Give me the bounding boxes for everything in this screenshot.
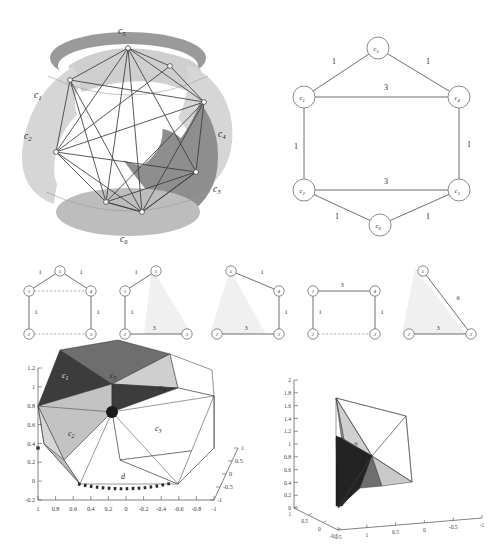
plot-right-x-tick — [309, 513, 312, 515]
plot-right-x-ticks: 10.50-0.5 — [289, 506, 341, 539]
subgraph-edge-1-5 — [129, 274, 151, 288]
subgraph-edge-weight-4-3: 1 — [380, 308, 383, 315]
plot-right-y-tick-label: 0.4 — [284, 480, 291, 486]
plot-right-y-tick-label: 1.6 — [284, 403, 291, 409]
subgraph-edge-1-5 — [33, 274, 55, 288]
subgraph-edge-weight-4-3: 1 — [96, 308, 99, 315]
plot-left-y-tick-label: 0.8 — [27, 402, 35, 409]
subgraph-edge-weight-5-4: 1 — [260, 268, 263, 275]
plot-right-z-tick-label: 0 — [423, 527, 426, 533]
subgraph-edge-5-4 — [236, 273, 274, 289]
plot-left-z-tick-label: 0.5 — [235, 457, 243, 464]
plot-left-y-tick-label: 0 — [32, 477, 35, 484]
plot-left-x-tick-label: 0 — [124, 505, 127, 512]
graph-edge-c5-c4 — [387, 54, 449, 92]
plot-left-y-tick-label: 1.2 — [27, 364, 35, 371]
plot-left-z-tick-label: -1 — [217, 496, 222, 503]
plot-left-y-tick-label: 1 — [32, 383, 35, 390]
plot-right-y-tick-label: 2 — [288, 377, 291, 383]
subgraph-node-label-1: 1 — [312, 289, 314, 294]
subgraph-edge-weight-1-2: 1 — [130, 308, 133, 315]
graph-edge-weight-c6-c3: 1 — [426, 212, 430, 221]
graph-edge-c6-c3 — [390, 194, 449, 220]
graph-edges — [304, 54, 459, 221]
graph-panel: 11311311 c5c1c4c2c3c6 — [252, 6, 494, 254]
plot-left-y-tick-label: -0.2 — [25, 496, 35, 503]
subgraph-4: 3111423 — [308, 281, 384, 339]
subgraph-edge-weight-2-3: 3 — [244, 324, 247, 331]
plot-left-x-tick-label: -0.8 — [192, 505, 202, 512]
plot-right-y-tick-label: 1.4 — [284, 416, 291, 422]
plot-left-x-tick-label: 1 — [36, 505, 39, 512]
subgraph-edge-weight-5-3: 6 — [456, 294, 460, 301]
plot-left-z-tick-label: 1 — [241, 444, 244, 451]
plot-right-z-ticks: 1.510.50-0.5-1 — [335, 515, 485, 540]
plot-right-x-tick — [323, 521, 326, 523]
sphere-panel: c5c1c2c4c3c6 — [10, 6, 248, 254]
sphere-region-label-c1: c1 — [34, 90, 42, 101]
plot-left-y-ticks: 1.210.80.60.40.20-0.2 — [25, 364, 42, 503]
subgraph-edge-weight-2-3: 3 — [436, 324, 439, 331]
sphere-region-label-c5: c5 — [118, 26, 126, 37]
plot-right-x-tick-label: 1 — [289, 511, 292, 517]
plot-left-y-tick-label: 0.2 — [27, 458, 35, 465]
plot-right-y-tick-label: 1 — [288, 441, 291, 447]
polyhedron-faces-right — [336, 398, 412, 508]
figure-root: c5c1c2c4c3c6 11311311 c5c1c4c2c3c6 11115… — [0, 0, 498, 556]
plot-right-y-tick-label: 1.8 — [284, 390, 291, 396]
graph-edge-weight-c1-c4: 3 — [384, 83, 388, 92]
graph-edge-weight-c2-c6: 1 — [335, 212, 339, 221]
subgraph-edge-weight-1-5: 1 — [38, 268, 41, 275]
subgraph-edge-weight-1-5: 1 — [134, 268, 137, 275]
plot-left-x-tick-label: 0.4 — [87, 505, 95, 512]
plot-left-z-ticks: 10.50-0.5-1 — [210, 444, 244, 503]
plot-left-y-tick-label: 0.6 — [27, 421, 35, 428]
plot-right-z-tick-label: 1 — [365, 532, 368, 538]
plot-left-x-tick-label: 0.8 — [52, 505, 60, 512]
graph-nodes: c5c1c4c2c3c6 — [293, 37, 470, 236]
plot-right-y-tick-label: 0.2 — [284, 492, 291, 498]
plot-right-y-tick-label: 1.2 — [284, 428, 291, 434]
subgraph-edge-weight-2-3: 3 — [152, 324, 155, 331]
subgraph-edge-weight-1-4: 3 — [340, 281, 343, 288]
subgraph-edge-weight-1-2: 1 — [34, 308, 37, 315]
plot-right-y-tick-label: 0.8 — [284, 454, 291, 460]
graph-edge-weight-c1-c5: 1 — [332, 57, 336, 66]
sphere-bands — [22, 32, 233, 236]
plot-right-x-tick-label: 0.5 — [301, 518, 308, 524]
plot-left-panel: 1.210.80.60.40.20-0.2 10.80.60.40.20-0.2… — [2, 348, 250, 554]
graph-edge-weight-c1-c2: 1 — [294, 142, 298, 151]
plot-right-z-tick-label: -0.5 — [449, 524, 458, 530]
plot-left-x-tick-label: 0.6 — [69, 505, 77, 512]
plot-left-z-tick-label: 0 — [229, 470, 232, 477]
subgraph-node-label-1: 1 — [124, 289, 126, 294]
plot-left-z-tick-label: -0.5 — [223, 483, 233, 490]
sphere-region-label-c3: c3 — [213, 184, 221, 195]
subgraph-edge-5-4 — [64, 274, 86, 288]
plot-left-x-tick-label: 0.2 — [105, 505, 113, 512]
plot-right-y-ticks: 21.81.61.41.210.80.60.40.20 — [284, 377, 298, 511]
plot-right-y-tick-label: 0.6 — [284, 467, 291, 473]
graph-edge-weight-c2-c3: 3 — [384, 177, 388, 186]
subgraph-edge-weight-1-2: 1 — [318, 308, 321, 315]
graph-edge-weight-c5-c4: 1 — [426, 57, 430, 66]
plot-left-x-tick-label: -1 — [211, 505, 216, 512]
subgraph-1: 111151423 — [24, 266, 100, 339]
subgraph-ghost-triangles — [144, 268, 466, 334]
graph-edge-weight-c4-c3: 1 — [467, 140, 471, 149]
plot-right-z-tick-label: -1 — [480, 522, 485, 528]
graph-edge-c2-c6 — [314, 195, 370, 221]
subgraph-node-label-1: 1 — [28, 289, 30, 294]
subgraph-edge-weight-4-3: 1 — [284, 308, 287, 315]
plot-right-panel: 21.81.61.41.210.80.60.40.20 10.50-0.5 1.… — [250, 368, 498, 554]
plot-right-z-tick-label: 0.5 — [392, 529, 399, 535]
plot-left-x-tick-label: -0.4 — [156, 505, 166, 512]
plot-left-x-tick-label: -0.2 — [139, 505, 149, 512]
subgraph-edge-weight-5-4: 1 — [79, 268, 82, 275]
plot-right-z-tick-label: 1.5 — [335, 534, 342, 540]
graph-edge-c1-c5 — [313, 54, 369, 91]
polyhedron-faces-left — [36, 340, 214, 484]
plot-right-x-tick-label: 0 — [318, 526, 321, 532]
plot-left-x-tick-label: -0.6 — [174, 505, 184, 512]
plot-left-x-ticks: 10.80.60.40.20-0.2-0.4-0.6-0.8-1 — [36, 496, 216, 512]
